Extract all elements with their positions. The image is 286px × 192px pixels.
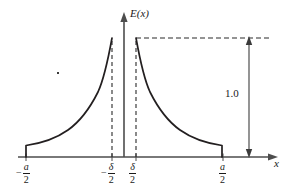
fraction-denominator: 2	[130, 175, 135, 185]
fraction: δ 2	[108, 162, 115, 185]
fraction-denominator: 2	[24, 175, 29, 185]
tick-label-neg-delta-over-2: − δ 2	[101, 162, 115, 185]
curve-right-branch	[136, 38, 222, 157]
fraction-denominator: 2	[220, 175, 225, 185]
fraction-denominator: 2	[109, 175, 114, 185]
minus-sign: −	[16, 167, 23, 178]
fraction: a 2	[23, 162, 30, 185]
fraction: a 2	[219, 162, 226, 185]
fraction-numerator: a	[219, 162, 226, 172]
scan-artifact-dot	[57, 72, 59, 74]
tick-label-pos-delta-over-2: δ 2	[128, 162, 136, 185]
minus-sign: −	[101, 167, 108, 178]
plot-canvas	[0, 0, 286, 192]
axis-label-x: x	[274, 158, 279, 169]
axis-label-y: E(x)	[130, 8, 149, 19]
tick-label-neg-a-over-2: − a 2	[16, 162, 30, 185]
exponential-field-figure: E(x) x 1.0 − a 2 − δ 2 δ 2 a	[0, 0, 286, 192]
height-measure-arrowhead-top	[246, 36, 252, 45]
height-annotation-label: 1.0	[225, 88, 239, 99]
curve-left-branch	[26, 38, 112, 157]
y-axis-arrowhead	[120, 12, 127, 22]
fraction-numerator: δ	[108, 162, 115, 172]
tick-label-pos-a-over-2: a 2	[218, 162, 226, 185]
fraction-numerator: a	[23, 162, 30, 172]
fraction: δ 2	[129, 162, 136, 185]
fraction-numerator: δ	[129, 162, 136, 172]
